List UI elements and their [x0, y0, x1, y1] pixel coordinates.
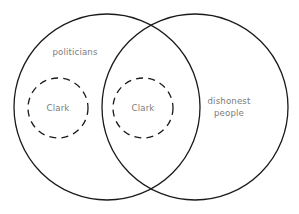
subset-label-clark-politicians-only: Clark	[47, 103, 70, 115]
set-label-dishonest-people: dishonest people	[208, 96, 251, 119]
subset-label-clark-intersection: Clark	[132, 103, 155, 115]
set-label-politicians: politicians	[52, 47, 97, 59]
venn-diagram: politicians Clark Clark dishonest people	[0, 0, 299, 214]
set-circle-dishonest-people	[102, 14, 288, 200]
set-circle-politicians	[14, 14, 200, 200]
